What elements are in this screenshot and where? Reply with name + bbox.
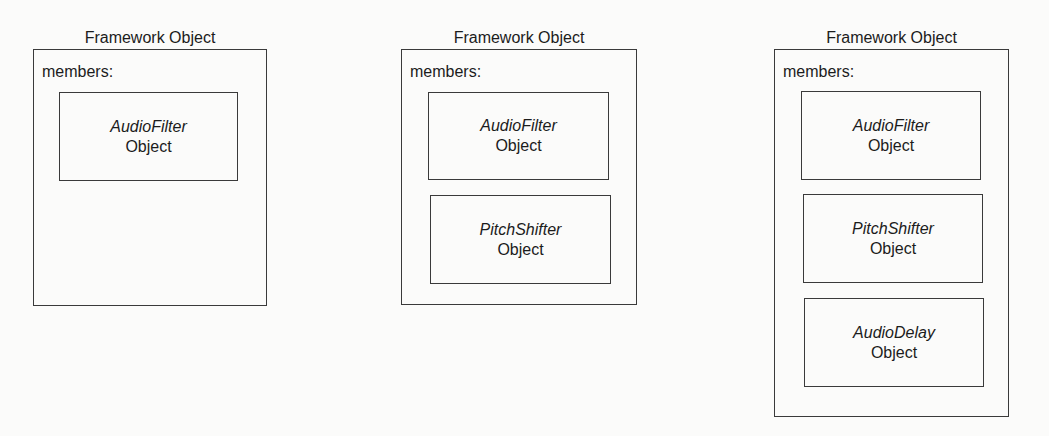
member-object-box: AudioFilter Object	[801, 91, 981, 180]
member-kind: Object	[497, 240, 543, 260]
member-object-box: AudioFilter Object	[59, 92, 238, 181]
member-object-box: PitchShifter Object	[430, 195, 611, 284]
framework-object-title: Framework Object	[774, 28, 1009, 48]
framework-object-title: Framework Object	[401, 28, 637, 48]
member-object-box: AudioDelay Object	[804, 298, 984, 387]
member-kind: Object	[495, 136, 541, 156]
member-class-name: PitchShifter	[852, 219, 934, 239]
member-kind: Object	[868, 136, 914, 156]
member-kind: Object	[871, 343, 917, 363]
member-kind: Object	[125, 137, 171, 157]
member-class-name: AudioFilter	[853, 116, 929, 136]
framework-object-title: Framework Object	[33, 28, 267, 48]
members-label: members:	[783, 62, 854, 82]
member-object-box: PitchShifter Object	[803, 194, 983, 283]
member-class-name: AudioFilter	[480, 116, 556, 136]
members-label: members:	[42, 62, 113, 82]
members-label: members:	[410, 62, 481, 82]
framework-object-box: members: AudioFilter Object PitchShifter…	[401, 49, 637, 305]
member-object-box: AudioFilter Object	[428, 92, 609, 180]
member-class-name: AudioFilter	[110, 117, 186, 137]
member-class-name: AudioDelay	[853, 323, 935, 343]
framework-object-box: members: AudioFilter Object	[33, 49, 267, 306]
member-kind: Object	[870, 239, 916, 259]
member-class-name: PitchShifter	[480, 220, 562, 240]
framework-object-box: members: AudioFilter Object PitchShifter…	[774, 49, 1009, 417]
